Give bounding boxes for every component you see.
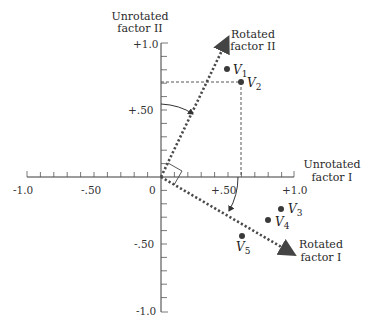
y-tick-pos-half: +.50 <box>128 104 154 116</box>
label-v4: V4 <box>275 215 290 231</box>
point-v3 <box>278 206 284 212</box>
label-v2: V2 <box>247 76 261 92</box>
label-v1: V1 <box>233 63 247 79</box>
rotated-factor-2-label-line2: factor II <box>230 40 275 53</box>
point-v1 <box>224 66 230 72</box>
factor-rotation-diagram: V1 V2 V3 V4 V5 -1.0 -.50 0 +.50 +1.0 +1.… <box>0 0 366 329</box>
variable-points <box>224 66 284 239</box>
x-tick-pos-1: +1.0 <box>282 184 308 196</box>
unrotated-factor-2-label-line2: factor II <box>117 22 162 35</box>
unrotated-factor-1-label-line1: Unrotated <box>303 158 360 171</box>
label-v5: V5 <box>236 240 251 256</box>
x-tick-neg-half: -.50 <box>81 184 101 196</box>
point-v4 <box>265 217 271 223</box>
x-tick-pos-half: +.50 <box>211 184 237 196</box>
rotated-factor-1-label-line1: Rotated <box>299 238 343 251</box>
x-tick-neg-1: -1.0 <box>13 184 33 196</box>
point-v5 <box>239 233 245 239</box>
y-tick-neg-half: -.50 <box>134 238 154 250</box>
unrotated-factor-1-label-line2: factor I <box>312 171 353 184</box>
x-tick-zero: 0 <box>149 184 156 196</box>
y-tick-pos-1: +1.0 <box>133 38 159 50</box>
y-tick-neg-1: -1.0 <box>136 305 156 317</box>
point-v2 <box>238 79 244 85</box>
rotated-factor-1-label-line2: factor I <box>301 251 342 264</box>
rotated-factor-2-axis <box>161 42 226 177</box>
label-v3: V3 <box>288 202 303 218</box>
rotation-arrow-factor-2 <box>161 104 193 114</box>
